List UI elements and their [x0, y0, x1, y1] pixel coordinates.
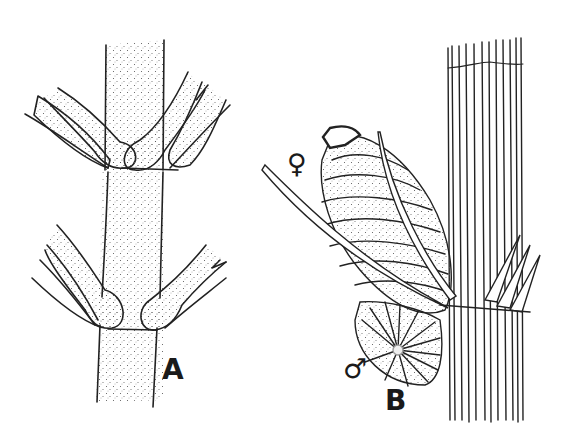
- female-symbol: ♀: [287, 150, 307, 177]
- ribbed-stem: [448, 38, 523, 422]
- panel-b-label: B: [385, 384, 406, 417]
- male-cone: [355, 302, 442, 386]
- female-cone: [321, 126, 451, 313]
- panel-a-label: A: [162, 353, 184, 386]
- panel-a-drawing: [25, 40, 230, 407]
- panel-b-drawing: [262, 38, 540, 422]
- male-symbol: ♂: [343, 355, 367, 382]
- illustration: [0, 0, 573, 445]
